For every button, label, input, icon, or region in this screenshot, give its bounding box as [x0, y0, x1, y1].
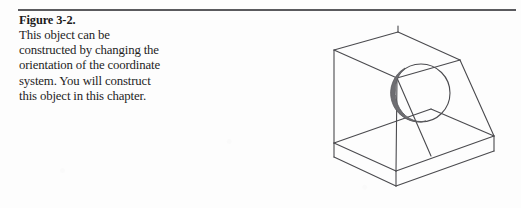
- caption-line-4: system. You will construct: [19, 74, 224, 89]
- edge-ramp-inner-vertical: [396, 78, 397, 171]
- wedge-block-wireframe: [334, 26, 494, 186]
- figure-illustration: [300, 8, 521, 204]
- edge-base-top-back-right: [431, 109, 494, 136]
- edge-back-top-left: [334, 32, 398, 50]
- figure-caption-body: This object can be constructed by changi…: [19, 28, 224, 104]
- edge-base-top-back: [334, 109, 431, 143]
- edge-top-inner-ridge: [397, 60, 460, 78]
- circular-hole: [391, 64, 450, 122]
- hole-inner-wall-shading: [391, 68, 426, 122]
- edge-base-top-right: [396, 136, 494, 171]
- caption-line-3: orientation of the coordinate: [19, 58, 224, 73]
- edge-top-front-inner: [334, 50, 397, 78]
- edge-base-front-left: [334, 157, 396, 186]
- figure-caption-title: Figure 3-2.: [19, 13, 224, 28]
- figure-page: Figure 3-2. This object can be construct…: [0, 0, 521, 208]
- edge-ramp-left-slope: [397, 78, 431, 156]
- caption-line-1: This object can be: [19, 28, 224, 43]
- edge-ramp-right-slope: [460, 60, 494, 136]
- edge-top-back-ridge: [398, 32, 460, 60]
- figure-caption: Figure 3-2. This object can be construct…: [19, 13, 224, 104]
- caption-line-5: this object in this chapter.: [19, 89, 224, 104]
- caption-line-2: constructed by changing the: [19, 43, 224, 58]
- edge-base-top-left: [334, 143, 396, 171]
- edge-base-front-right: [396, 151, 494, 186]
